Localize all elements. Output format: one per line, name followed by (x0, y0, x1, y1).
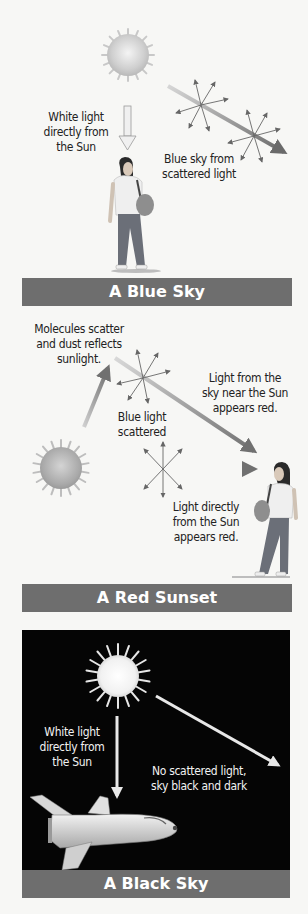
space-shuttle-icon (30, 795, 177, 870)
banner-black-sky: A Black Sky (22, 870, 290, 898)
label-direct-white-light-space: White light directly from the Sun (34, 725, 110, 770)
label-no-scattered-light: No scattered light, sky black and dark (140, 764, 258, 794)
panel-black-sky: White light directly from the Sun No sca… (0, 0, 308, 914)
unscattered-beam-arrow-icon (156, 696, 278, 765)
sun-icon (86, 644, 149, 708)
